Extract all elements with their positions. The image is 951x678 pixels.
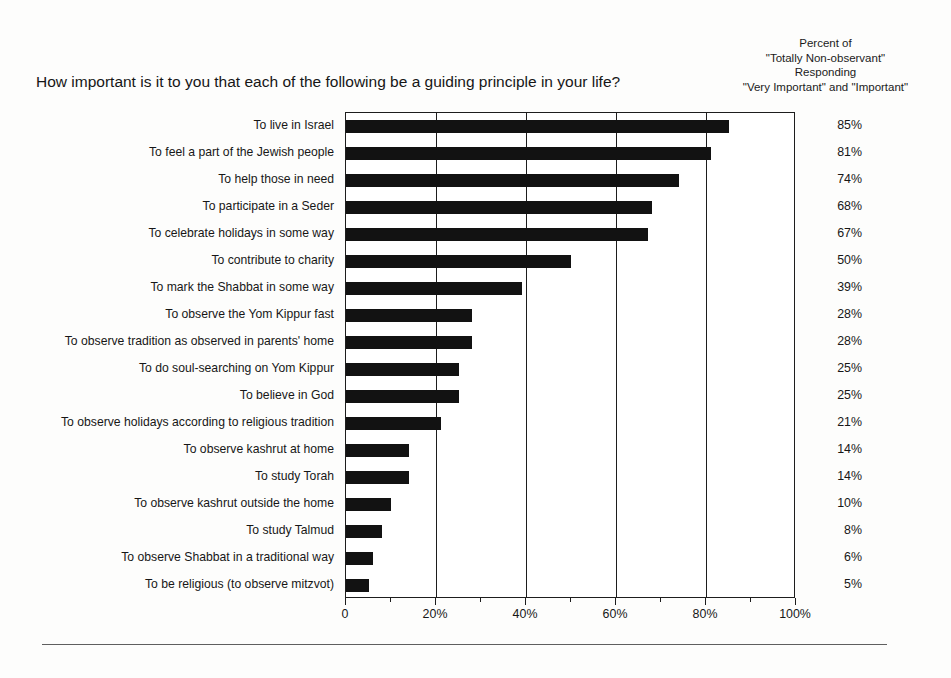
x-tick-label: 100%: [779, 607, 811, 621]
value-label: 28%: [818, 335, 862, 348]
category-label: To participate in a Seder: [203, 200, 334, 213]
category-axis-labels: To live in IsraelTo feel a part of the J…: [0, 112, 340, 598]
bar: [346, 525, 382, 538]
value-label: 67%: [818, 227, 862, 240]
value-label: 10%: [818, 497, 862, 510]
category-label: To study Talmud: [246, 524, 334, 537]
value-label: 14%: [818, 470, 862, 483]
bar: [346, 444, 409, 457]
x-minor-tick: [480, 598, 481, 602]
x-tick-label: 60%: [603, 607, 628, 621]
value-label: 8%: [818, 524, 862, 537]
bar: [346, 336, 472, 349]
x-tick-label: 0: [342, 607, 349, 621]
bar: [346, 201, 652, 214]
category-label: To observe kashrut outside the home: [134, 497, 334, 510]
value-header-line-2: "Totally Non-observant": [700, 51, 951, 66]
value-header-line-4: "Very Important" and "Important": [700, 80, 951, 95]
x-tick: [435, 598, 436, 605]
bar: [346, 363, 459, 376]
x-minor-tick: [570, 598, 571, 602]
bar: [346, 174, 679, 187]
value-label: 6%: [818, 551, 862, 564]
bar: [346, 552, 373, 565]
value-label: 28%: [818, 308, 862, 321]
category-label: To feel a part of the Jewish people: [149, 146, 334, 159]
bar-value-labels: 85%81%74%68%67%50%39%28%28%25%25%21%14%1…: [818, 112, 888, 598]
value-label: 81%: [818, 146, 862, 159]
bar: [346, 282, 522, 295]
bar: [346, 498, 391, 511]
x-minor-tick: [750, 598, 751, 602]
value-label: 25%: [818, 362, 862, 375]
bar: [346, 471, 409, 484]
x-tick: [795, 598, 796, 605]
x-tick: [705, 598, 706, 605]
category-label: To do soul-searching on Yom Kippur: [139, 362, 334, 375]
category-label: To observe tradition as observed in pare…: [65, 335, 334, 348]
value-label: 21%: [818, 416, 862, 429]
value-label: 14%: [818, 443, 862, 456]
value-header-line-1: Percent of: [700, 36, 951, 51]
gridline: [706, 113, 707, 597]
category-label: To live in Israel: [253, 119, 334, 132]
x-minor-tick: [660, 598, 661, 602]
category-label: To study Torah: [255, 470, 334, 483]
value-label: 39%: [818, 281, 862, 294]
footer-divider: [42, 644, 887, 645]
plot-area: [345, 112, 795, 598]
x-tick: [525, 598, 526, 605]
category-label: To observe kashrut at home: [184, 443, 334, 456]
x-tick-label: 20%: [423, 607, 448, 621]
bar: [346, 417, 441, 430]
bar: [346, 228, 648, 241]
bar: [346, 390, 459, 403]
value-label: 85%: [818, 119, 862, 132]
x-tick: [615, 598, 616, 605]
bar: [346, 255, 571, 268]
bar: [346, 579, 369, 592]
x-tick: [345, 598, 346, 605]
x-minor-tick: [390, 598, 391, 602]
category-label: To contribute to charity: [211, 254, 334, 267]
value-label: 74%: [818, 173, 862, 186]
value-label: 68%: [818, 200, 862, 213]
category-label: To mark the Shabbat in some way: [150, 281, 334, 294]
chart-page: How important is it to you that each of …: [0, 0, 951, 678]
category-label: To be religious (to observe mitzvot): [145, 578, 334, 591]
bar: [346, 309, 472, 322]
category-label: To celebrate holidays in some way: [148, 227, 334, 240]
x-tick-label: 80%: [693, 607, 718, 621]
x-axis: 020%40%60%80%100%: [345, 598, 795, 638]
chart-question-title: How important is it to you that each of …: [36, 72, 726, 91]
category-label: To observe Shabbat in a traditional way: [121, 551, 334, 564]
category-label: To help those in need: [218, 173, 334, 186]
chart-value-column-header: Percent of "Totally Non-observant" Respo…: [700, 36, 951, 94]
bar: [346, 120, 729, 133]
value-label: 50%: [818, 254, 862, 267]
category-label: To observe the Yom Kippur fast: [165, 308, 334, 321]
x-tick-label: 40%: [513, 607, 538, 621]
value-header-line-3: Responding: [700, 65, 951, 80]
bar: [346, 147, 711, 160]
category-label: To observe holidays according to religio…: [61, 416, 334, 429]
category-label: To believe in God: [240, 389, 334, 402]
value-label: 5%: [818, 578, 862, 591]
value-label: 25%: [818, 389, 862, 402]
